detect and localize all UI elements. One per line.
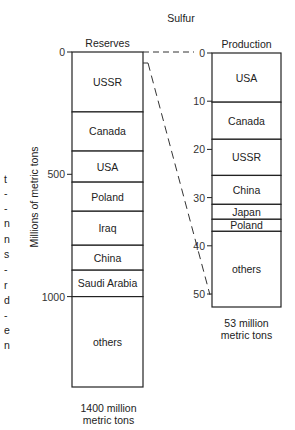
clipped-text-fragment: - xyxy=(4,187,8,199)
clipped-text-fragment: - xyxy=(4,263,8,275)
production-header: Production xyxy=(221,38,271,50)
production-tick-label: 10 xyxy=(193,95,205,107)
clipped-text-fragment: n xyxy=(4,339,10,351)
production-segment-label: Japan xyxy=(232,206,261,218)
production-tick-label: 30 xyxy=(193,192,205,204)
reserves-segment-label: China xyxy=(94,252,122,264)
clipped-text-fragment: - xyxy=(4,202,8,214)
reserves-segment-label: Saudi Arabia xyxy=(78,277,138,289)
production-tick-label: 50 xyxy=(193,288,205,300)
clipped-text-fragment: d xyxy=(4,294,10,306)
production-total-line2: metric tons xyxy=(221,329,272,341)
reserves-tick-label: 1000 xyxy=(42,291,66,303)
production-tick-label: 40 xyxy=(193,240,205,252)
reserves-segment-label: Poland xyxy=(91,191,124,203)
clipped-text-fragment: t xyxy=(4,173,7,185)
reserves-segment-label: others xyxy=(93,336,122,348)
y-axis-label: Millions of metric tons xyxy=(28,147,40,248)
reserves-tick-label: 500 xyxy=(47,168,65,180)
chart-title: Sulfur xyxy=(167,12,195,24)
clipped-text-fragment: s xyxy=(4,248,9,260)
reserves-segment-label: USSR xyxy=(93,76,123,88)
production-tick-label: 20 xyxy=(193,143,205,155)
clipped-text-fragment: r xyxy=(4,279,8,291)
reserves-total-line2: metric tons xyxy=(83,414,134,426)
reserves-tick-label: 0 xyxy=(59,46,65,58)
reserves-segment-label: USA xyxy=(97,161,119,173)
clipped-text-fragment: - xyxy=(4,309,8,321)
production-segment-label: USA xyxy=(236,72,258,84)
clipped-text-fragment: n xyxy=(4,217,10,229)
production-segment-label: USSR xyxy=(232,151,262,163)
production-total-line1: 53 million xyxy=(224,317,269,329)
reserves-header: Reserves xyxy=(85,37,129,49)
reserves-total-line1: 1400 million xyxy=(80,402,136,414)
reserves-segment-label: Canada xyxy=(89,125,126,137)
reserves-segment-label: Iraq xyxy=(98,222,116,234)
production-segment-label: Canada xyxy=(228,115,265,127)
production-segment-label: others xyxy=(232,263,261,275)
production-tick-label: 0 xyxy=(199,47,205,59)
clipped-text-fragment: e xyxy=(4,324,10,336)
sulfur-chart: Sulfurt--nns-rd-enMillions of metric ton… xyxy=(0,0,295,430)
production-segment-label: Poland xyxy=(230,219,263,231)
production-segment-label: China xyxy=(233,184,261,196)
clipped-text-fragment: n xyxy=(4,233,10,245)
